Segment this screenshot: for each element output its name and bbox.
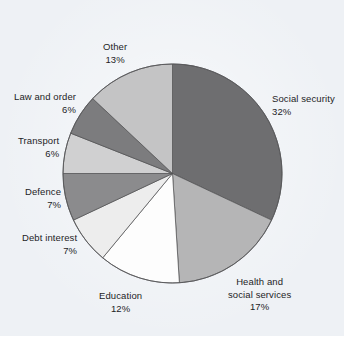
pie-label-social-security: Social security 32%	[272, 93, 335, 118]
pie-label-social-security-name: Social security	[272, 93, 335, 106]
pie-label-health-value: 17%	[228, 301, 291, 314]
pie-label-other-name: Other	[103, 41, 127, 54]
pie-label-defence-value: 7%	[25, 199, 61, 212]
pie-label-debt-interest: Debt interest 7%	[22, 232, 77, 257]
pie-label-transport-name: Transport	[18, 135, 59, 148]
pie-label-education-value: 12%	[99, 303, 142, 316]
pie-label-other-value: 13%	[103, 54, 127, 67]
pie-label-defence-name: Defence	[25, 186, 61, 199]
pie-slice-group	[63, 64, 282, 283]
pie-label-health-name-line1: Health and	[228, 276, 291, 289]
pie-chart-figure: Social security 32% Health and social se…	[0, 0, 344, 359]
pie-label-social-security-value: 32%	[272, 106, 335, 119]
pie-label-law-and-order-name: Law and order	[14, 91, 76, 104]
pie-label-education-name: Education	[99, 290, 142, 303]
pie-label-law-and-order-value: 6%	[14, 104, 76, 117]
pie-label-law-and-order: Law and order 6%	[14, 91, 76, 116]
pie-chart-graphic	[62, 63, 283, 284]
pie-label-transport-value: 6%	[18, 148, 59, 161]
pie-label-defence: Defence 7%	[25, 186, 61, 211]
pie-label-debt-interest-name: Debt interest	[22, 232, 77, 245]
pie-label-health-and-social-services: Health and social services 17%	[228, 276, 291, 314]
pie-label-debt-interest-value: 7%	[22, 245, 77, 258]
pie-label-other: Other 13%	[103, 41, 127, 66]
pie-label-education: Education 12%	[99, 290, 142, 315]
pie-label-health-name-line2: social services	[228, 289, 291, 302]
pie-label-transport: Transport 6%	[18, 135, 59, 160]
pie-svg	[62, 63, 283, 284]
